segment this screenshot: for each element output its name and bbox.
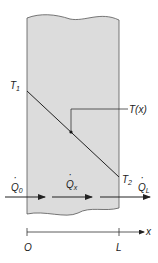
l-label: L — [116, 242, 122, 253]
svg-text:Q0: Q0 — [11, 182, 23, 194]
t2-label: T2 — [122, 174, 132, 186]
svg-text:·: · — [141, 172, 144, 183]
svg-text:QL: QL — [138, 182, 150, 194]
ql-label: QL · — [138, 172, 150, 194]
svg-text:·: · — [14, 172, 17, 183]
x-axis-label: x — [145, 226, 152, 237]
t1-label: T1 — [10, 80, 20, 92]
tx-label: T(x) — [129, 104, 147, 115]
plane-wall-diagram: T1 T(x) T2 Q0 · Qx · QL · O L x — [0, 0, 158, 263]
svg-text:·: · — [69, 169, 72, 180]
origin-label: O — [24, 242, 32, 253]
q0-label: Q0 · — [11, 172, 23, 194]
